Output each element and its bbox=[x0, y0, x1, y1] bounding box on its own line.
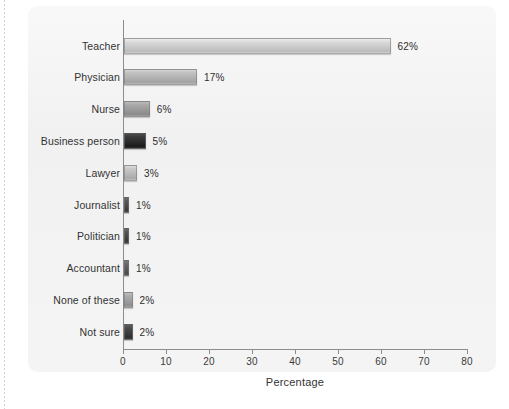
bar-value-label: 62% bbox=[398, 40, 419, 51]
bar-value-label: 3% bbox=[144, 167, 159, 178]
x-tick bbox=[338, 349, 339, 354]
category-label: Business person bbox=[41, 135, 120, 147]
x-tick-label: 70 bbox=[418, 356, 430, 367]
bar-row: Physician17% bbox=[0, 61, 509, 94]
x-tick bbox=[295, 349, 296, 354]
x-tick bbox=[252, 349, 253, 354]
category-label: Nurse bbox=[91, 103, 120, 115]
x-tick bbox=[424, 349, 425, 354]
x-tick-label: 10 bbox=[160, 356, 172, 367]
horizontal-bar-chart: 01020304050607080 Teacher62%Physician17%… bbox=[0, 0, 509, 409]
bar-row: Teacher62% bbox=[0, 29, 509, 62]
bar[interactable] bbox=[124, 292, 133, 308]
x-tick-label: 40 bbox=[289, 356, 301, 367]
bar-value-label: 2% bbox=[140, 294, 155, 305]
x-tick bbox=[467, 349, 468, 354]
bar-value-label: 6% bbox=[157, 104, 172, 115]
x-tick-label: 20 bbox=[203, 356, 215, 367]
bar[interactable] bbox=[124, 133, 146, 149]
bar[interactable] bbox=[124, 197, 129, 213]
bar-value-label: 1% bbox=[136, 263, 151, 274]
x-tick-label: 60 bbox=[375, 356, 387, 367]
category-label: Teacher bbox=[82, 40, 120, 52]
bar-row: Business person5% bbox=[0, 124, 509, 157]
bar-value-label: 2% bbox=[140, 326, 155, 337]
x-tick-label: 0 bbox=[120, 356, 126, 367]
bar[interactable] bbox=[124, 165, 137, 181]
bar-row: Politician1% bbox=[0, 220, 509, 253]
bar-value-label: 17% bbox=[204, 72, 225, 83]
x-tick-label: 80 bbox=[461, 356, 473, 367]
category-label: Accountant bbox=[66, 262, 120, 274]
x-tick bbox=[166, 349, 167, 354]
bar-row: Not sure2% bbox=[0, 315, 509, 348]
category-label: Politician bbox=[77, 230, 120, 242]
category-label: Physician bbox=[74, 71, 120, 83]
x-tick-label: 30 bbox=[246, 356, 258, 367]
bar-row: Journalist1% bbox=[0, 188, 509, 221]
bar-value-label: 1% bbox=[136, 231, 151, 242]
category-label: Journalist bbox=[74, 199, 120, 211]
bar-row: Nurse6% bbox=[0, 93, 509, 126]
x-axis-title: Percentage bbox=[123, 376, 467, 388]
bar[interactable] bbox=[124, 324, 133, 340]
bar[interactable] bbox=[124, 260, 129, 276]
x-tick bbox=[123, 349, 124, 354]
bar-value-label: 1% bbox=[136, 199, 151, 210]
bar-row: None of these2% bbox=[0, 283, 509, 316]
x-tick bbox=[209, 349, 210, 354]
category-label: None of these bbox=[53, 294, 120, 306]
bar-row: Lawyer3% bbox=[0, 156, 509, 189]
x-tick bbox=[381, 349, 382, 354]
bar-row: Accountant1% bbox=[0, 252, 509, 285]
bar[interactable] bbox=[124, 69, 197, 85]
bar[interactable] bbox=[124, 101, 150, 117]
bar[interactable] bbox=[124, 228, 129, 244]
category-label: Lawyer bbox=[86, 167, 120, 179]
bar-value-label: 5% bbox=[153, 135, 168, 146]
category-label: Not sure bbox=[80, 326, 120, 338]
x-tick-label: 50 bbox=[332, 356, 344, 367]
bar[interactable] bbox=[124, 38, 391, 54]
